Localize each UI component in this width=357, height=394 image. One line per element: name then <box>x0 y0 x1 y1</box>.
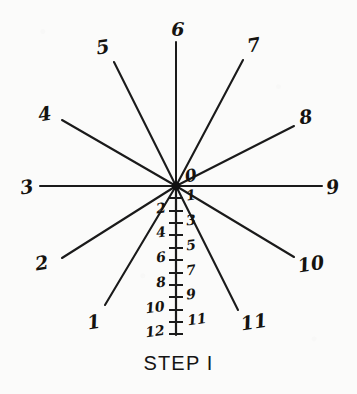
scale-label-9: 9 <box>185 286 196 301</box>
ray-label-7: 7 <box>246 35 262 56</box>
scale-axis-group <box>169 186 183 335</box>
scale-label-12: 12 <box>144 323 165 339</box>
ray-label-3: 3 <box>19 177 35 198</box>
scale-label-8: 8 <box>155 274 166 289</box>
ray-line-2 <box>62 186 176 258</box>
radial-diagram-canvas <box>0 0 357 394</box>
ray-label-6: 6 <box>171 20 185 39</box>
ray-label-4: 4 <box>37 104 53 125</box>
ray-label-11: 11 <box>239 311 269 334</box>
ray-label-10: 10 <box>296 253 326 276</box>
ray-lines-group <box>40 42 322 310</box>
ray-label-1: 1 <box>86 312 102 333</box>
origin-hub-point <box>172 182 180 190</box>
scale-label-6: 6 <box>155 249 166 264</box>
scale-label-7: 7 <box>185 262 196 277</box>
ray-label-2: 2 <box>34 253 50 274</box>
scale-label-5: 5 <box>185 237 196 252</box>
scale-label-1: 1 <box>185 187 196 202</box>
scale-label-4: 4 <box>155 224 166 239</box>
scale-label-2: 2 <box>155 200 166 215</box>
ray-label-8: 8 <box>298 107 314 128</box>
figure-root: 1234567891011 123456789101112 0 STEP I <box>0 0 357 394</box>
figure-caption: STEP I <box>0 352 357 375</box>
scale-label-3: 3 <box>185 212 196 227</box>
ray-label-5: 5 <box>95 37 111 58</box>
scale-label-10: 10 <box>144 299 165 315</box>
ray-label-9: 9 <box>325 177 341 198</box>
scale-label-11: 11 <box>186 311 207 327</box>
